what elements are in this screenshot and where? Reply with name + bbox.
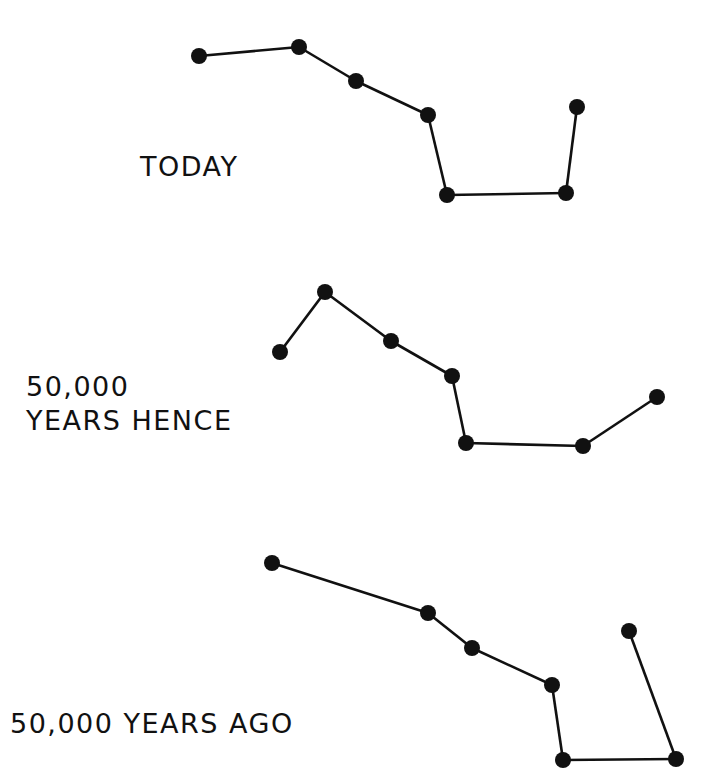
constellation-today bbox=[191, 39, 585, 203]
connector-line bbox=[452, 376, 466, 443]
star-dot bbox=[575, 438, 591, 454]
star-dot bbox=[621, 623, 637, 639]
connector-line bbox=[272, 563, 428, 613]
star-dot bbox=[464, 640, 480, 656]
star-dot bbox=[668, 751, 684, 767]
connector-line bbox=[472, 648, 552, 685]
constellation-50000-years-hence bbox=[272, 284, 665, 454]
star-dot bbox=[458, 435, 474, 451]
connector-line bbox=[566, 107, 577, 193]
star-dot bbox=[420, 605, 436, 621]
big-dipper-diagram bbox=[0, 0, 720, 784]
connector-line bbox=[466, 443, 583, 446]
constellation-50000-years-ago bbox=[264, 555, 684, 768]
star-dot bbox=[348, 73, 364, 89]
star-dot bbox=[383, 333, 399, 349]
star-dot bbox=[544, 677, 560, 693]
star-dot bbox=[272, 344, 288, 360]
connector-line bbox=[280, 292, 325, 352]
star-dot bbox=[649, 389, 665, 405]
connector-line bbox=[299, 47, 356, 81]
star-dot bbox=[444, 368, 460, 384]
star-dot bbox=[569, 99, 585, 115]
connector-line bbox=[447, 193, 566, 195]
star-dot bbox=[555, 752, 571, 768]
connector-line bbox=[552, 685, 563, 760]
connector-line bbox=[583, 397, 657, 446]
star-dot bbox=[558, 185, 574, 201]
connector-line bbox=[356, 81, 428, 115]
connector-line bbox=[199, 47, 299, 56]
star-dot bbox=[264, 555, 280, 571]
connector-line bbox=[428, 115, 447, 195]
star-dot bbox=[420, 107, 436, 123]
star-dot bbox=[439, 187, 455, 203]
connector-line bbox=[325, 292, 391, 341]
connector-line bbox=[629, 631, 676, 759]
connector-line bbox=[563, 759, 676, 760]
star-dot bbox=[191, 48, 207, 64]
star-dot bbox=[317, 284, 333, 300]
connector-line bbox=[391, 341, 452, 376]
connector-line bbox=[428, 613, 472, 648]
star-dot bbox=[291, 39, 307, 55]
